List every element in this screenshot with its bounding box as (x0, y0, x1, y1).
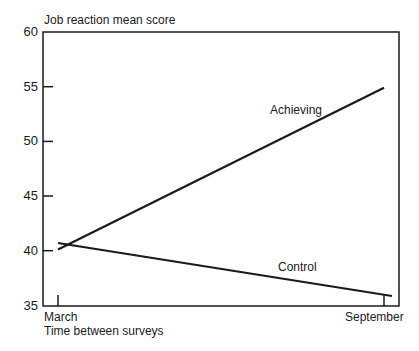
series-label-control: Control (278, 260, 317, 274)
x-axis-title: Time between surveys (44, 324, 164, 338)
y-tick-label: 50 (10, 134, 38, 148)
x-ticks (58, 295, 384, 306)
series-label-achieving: Achieving (270, 103, 322, 117)
line-chart: Job reaction mean score 60 55 50 45 40 3… (0, 0, 419, 351)
y-tick-label: 45 (10, 189, 38, 203)
y-tick-label: 35 (10, 299, 38, 313)
y-tick-label: 60 (10, 25, 38, 39)
y-tick-label: 55 (10, 80, 38, 94)
series-achieving-line (58, 88, 384, 250)
x-tick-label-september: September (345, 310, 404, 324)
y-ticks (43, 87, 53, 251)
y-tick-label: 40 (10, 244, 38, 258)
y-axis-title: Job reaction mean score (44, 13, 175, 27)
series-control-line (58, 243, 392, 296)
chart-canvas (0, 0, 419, 351)
x-tick-label-march: March (44, 310, 77, 324)
